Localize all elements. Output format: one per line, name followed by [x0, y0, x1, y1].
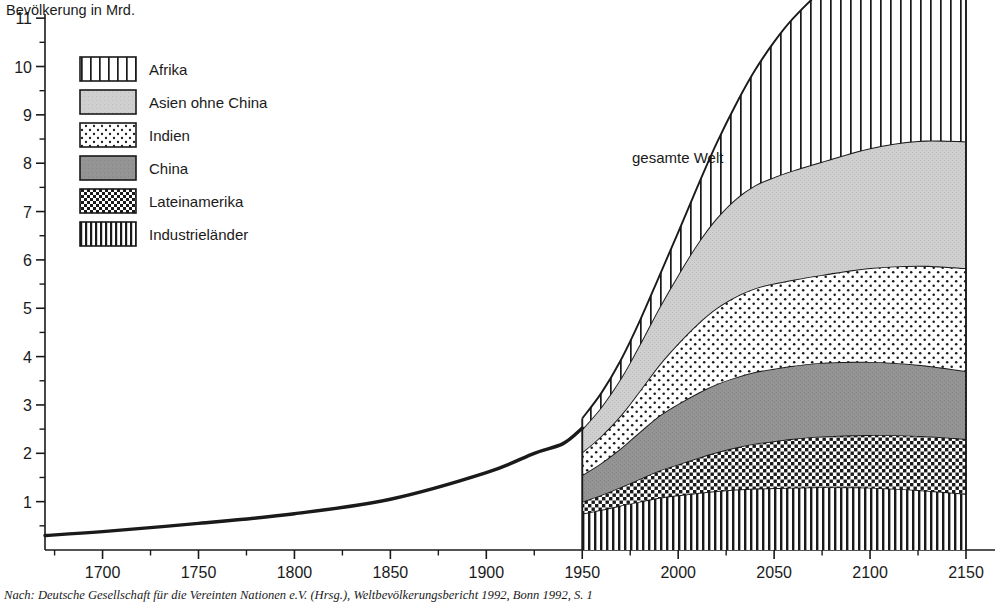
- source-caption: Nach: Deutsche Gesellschaft für die Vere…: [3, 588, 593, 602]
- legend-label: Afrika: [149, 61, 188, 78]
- legend-item-lateinamerika: Lateinamerika: [80, 189, 244, 213]
- legend-swatch: [80, 222, 136, 246]
- historical-world-population-line: [45, 428, 582, 535]
- legend-item-china: China: [80, 156, 189, 180]
- y-tick-label: 2: [23, 445, 32, 462]
- x-tick-label: 1900: [469, 564, 505, 581]
- x-tick-label: 1700: [85, 564, 121, 581]
- x-tick-label: 1750: [181, 564, 217, 581]
- population-stacked-area-chart: Bevölkerung in Mrd. 12345678910111700175…: [0, 0, 999, 602]
- x-tick-label: 2150: [948, 564, 984, 581]
- historical-line-layer: [45, 428, 582, 535]
- legend-item-industriel-nder: Industrieländer: [80, 222, 248, 246]
- legend-label: China: [149, 160, 189, 177]
- x-tick-label: 2050: [756, 564, 792, 581]
- legend-item-asien-ohne-china: Asien ohne China: [80, 90, 268, 114]
- legend-label: Indien: [149, 127, 190, 144]
- y-tick-label: 5: [23, 300, 32, 317]
- x-tick-label: 1800: [277, 564, 313, 581]
- legend-label: Asien ohne China: [149, 94, 268, 111]
- x-tick-label: 1850: [373, 564, 409, 581]
- legend-swatch: [80, 156, 136, 180]
- figure-root: Bevölkerung in Mrd. 12345678910111700175…: [0, 0, 999, 602]
- legend: AfrikaAsien ohne ChinaIndienChinaLateina…: [80, 57, 268, 246]
- legend-swatch: [80, 90, 136, 114]
- y-tick-label: 10: [14, 59, 32, 76]
- y-tick-label: 3: [23, 397, 32, 414]
- legend-swatch: [80, 57, 136, 81]
- legend-swatch: [80, 189, 136, 213]
- legend-label: Industrieländer: [149, 226, 248, 243]
- legend-item-indien: Indien: [80, 123, 190, 147]
- y-tick-label: 8: [23, 155, 32, 172]
- x-tick-label: 1950: [564, 564, 600, 581]
- legend-label: Lateinamerika: [149, 193, 244, 210]
- annotation-gesamte-welt: gesamte Welt: [632, 149, 724, 166]
- y-tick-label: 1: [23, 494, 32, 511]
- y-tick-label: 7: [23, 204, 32, 221]
- y-tick-label: 4: [23, 349, 32, 366]
- y-tick-label: 6: [23, 252, 32, 269]
- x-tick-label: 2000: [660, 564, 696, 581]
- y-tick-label: 11: [15, 10, 32, 27]
- legend-swatch: [80, 123, 136, 147]
- x-tick-label: 2100: [852, 564, 888, 581]
- stacked-bands-layer: [582, 0, 966, 550]
- legend-item-afrika: Afrika: [80, 57, 188, 81]
- y-tick-label: 9: [23, 107, 32, 124]
